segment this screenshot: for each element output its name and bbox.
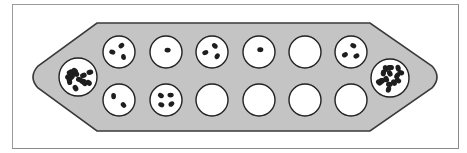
bottom-pit-6[interactable]: [335, 84, 367, 116]
top-pit-6[interactable]: [335, 36, 367, 68]
pit-hole[interactable]: [196, 84, 228, 116]
pit-hole[interactable]: [150, 84, 182, 116]
seed: [168, 93, 174, 98]
top-pit-5[interactable]: [289, 36, 321, 68]
bottom-pit-4[interactable]: [243, 84, 275, 116]
top-pit-1[interactable]: [103, 36, 135, 68]
pit-hole[interactable]: [335, 36, 367, 68]
pit-hole[interactable]: [335, 84, 367, 116]
right-store[interactable]: [371, 59, 409, 97]
top-pit-3[interactable]: [196, 36, 228, 68]
top-pit-2[interactable]: [150, 36, 182, 68]
bottom-pit-3[interactable]: [196, 84, 228, 116]
bottom-pit-2[interactable]: [150, 84, 182, 116]
left-store[interactable]: [59, 58, 97, 96]
pit-hole[interactable]: [103, 84, 135, 116]
pit-hole[interactable]: [243, 84, 275, 116]
bottom-pit-5[interactable]: [289, 84, 321, 116]
top-pit-4[interactable]: [243, 36, 275, 68]
pit-hole[interactable]: [289, 84, 321, 116]
mancala-board: [0, 0, 467, 153]
pit-hole[interactable]: [243, 36, 275, 68]
pit-hole[interactable]: [196, 36, 228, 68]
pit-hole[interactable]: [103, 36, 135, 68]
pit-hole[interactable]: [289, 36, 321, 68]
bottom-pit-1[interactable]: [103, 84, 135, 116]
